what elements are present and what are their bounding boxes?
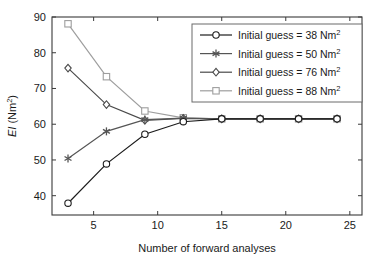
series-marker-3 [142,108,148,114]
y-tick-label-50: 50 [34,154,46,166]
series-marker-0 [65,200,71,206]
series-marker-0 [295,116,301,122]
figure-container: 510152025405060708090Number of forward a… [0,0,386,263]
series-marker-0 [334,116,340,122]
y-axis-title: EI (Nm2) [5,95,18,137]
legend-marker-0 [213,32,219,38]
x-tick-label-20: 20 [280,219,292,231]
y-tick-label-60: 60 [34,118,46,130]
y-tick-label-70: 70 [34,82,46,94]
x-tick-label-10: 10 [152,219,164,231]
series-line-1 [68,118,337,158]
x-tick-label-15: 15 [216,219,228,231]
series-marker-3 [65,21,71,27]
series-marker-0 [180,119,186,125]
series-marker-0 [219,116,225,122]
y-tick-label-90: 90 [34,11,46,23]
y-tick-label-80: 80 [34,47,46,59]
legend-label-2: Initial guess = 76 Nm2 [238,65,341,78]
y-tick-label-40: 40 [34,190,46,202]
x-tick-label-5: 5 [91,219,97,231]
convergence-line-chart: 510152025405060708090Number of forward a… [0,0,386,263]
x-axis-title: Number of forward analyses [138,242,276,254]
legend-label-0: Initial guess = 38 Nm2 [238,28,341,41]
legend-label-1: Initial guess = 50 Nm2 [238,47,341,60]
series-marker-0 [257,116,263,122]
series-marker-0 [103,161,109,167]
legend-marker-3 [213,88,219,94]
series-marker-0 [142,131,148,137]
legend-label-3: Initial guess = 88 Nm2 [238,84,341,97]
x-tick-label-25: 25 [344,219,356,231]
series-marker-3 [103,73,109,79]
